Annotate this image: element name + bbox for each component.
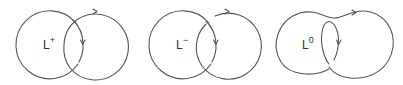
label-l-minus: L−: [176, 37, 188, 51]
label-superscript: 0: [309, 35, 314, 45]
outer-curve: [276, 11, 393, 78]
label-l-zero: L0: [302, 37, 314, 51]
panel-l-minus: [149, 9, 261, 79]
label-base: L: [176, 38, 183, 52]
label-base: L: [302, 38, 309, 52]
arrow-icon: [93, 9, 97, 14]
label-base: L: [43, 38, 50, 52]
panel-l-plus: [16, 9, 129, 80]
inner-loop: [321, 22, 338, 64]
label-l-plus: L+: [43, 37, 55, 51]
panel-l-zero: [276, 10, 393, 78]
label-superscript: −: [183, 35, 188, 45]
skein-diagram: [0, 0, 403, 85]
label-superscript: +: [50, 35, 55, 45]
